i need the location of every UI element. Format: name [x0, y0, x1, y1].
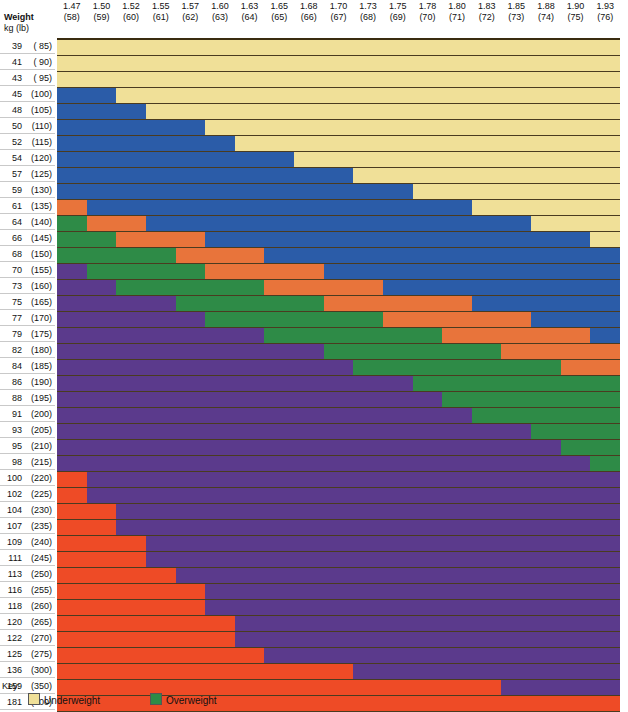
weight-kg: 98: [0, 454, 22, 470]
weight-axis-label-units: kg (lb): [4, 23, 29, 33]
weight-row-label: 39( 85): [0, 38, 55, 54]
weight-lb: (180): [22, 342, 55, 358]
weight-lb: (125): [22, 166, 55, 182]
weight-lb: ( 85): [22, 38, 55, 54]
bmi-grid-row: [57, 328, 620, 344]
bmi-cell-underweight: [57, 72, 620, 88]
bmi-grid-row: [57, 184, 620, 200]
weight-row-label: 86(190): [0, 374, 55, 390]
weight-lb: (235): [22, 518, 55, 534]
weight-row-label: 120(265): [0, 614, 55, 630]
bmi-grid-row: [57, 360, 620, 376]
legend-item: Overweight: [150, 693, 217, 706]
bmi-grid-row: [57, 248, 620, 264]
bmi-cell-underweight: [353, 168, 620, 184]
legend-label: Overweight: [166, 695, 217, 706]
bmi-grid-row: [57, 312, 620, 328]
height-column-header: 1.88(74): [531, 1, 561, 23]
bmi-grid-row: [57, 520, 620, 536]
bmi-grid-row: [57, 56, 620, 72]
bmi-cell-obese: [57, 424, 531, 440]
bmi-cell-obese: [57, 264, 87, 280]
bmi-cell-overweight: [531, 424, 620, 440]
bmi-cell-normal: [264, 248, 620, 264]
weight-row-label: 98(215): [0, 454, 55, 470]
weight-lb: (190): [22, 374, 55, 390]
bmi-cell-obese: [57, 408, 472, 424]
weight-lb: (200): [22, 406, 55, 422]
bmi-cell-normal: [57, 104, 146, 120]
weight-kg: 45: [0, 86, 22, 102]
height-column-header: 1.73(68): [353, 1, 383, 23]
weight-row-label: 50(110): [0, 118, 55, 134]
height-meters: 1.83: [472, 1, 502, 12]
weight-lb: (145): [22, 230, 55, 246]
height-inches: (62): [175, 12, 205, 23]
bmi-cell-underweight: [116, 88, 620, 104]
bmi-cell-severely-obese: [57, 520, 116, 536]
weight-row-label: 79(175): [0, 326, 55, 342]
weight-kg: 122: [0, 630, 22, 646]
weight-lb: (160): [22, 278, 55, 294]
bmi-cell-overweight: [57, 216, 87, 232]
bmi-cell-normal: [57, 168, 353, 184]
bmi-cell-obese: [116, 504, 620, 520]
weight-lb: (105): [22, 102, 55, 118]
height-meters: 1.88: [531, 1, 561, 12]
bmi-grid-row: [57, 168, 620, 184]
weight-lb: (135): [22, 198, 55, 214]
bmi-cell-obese: [235, 632, 620, 648]
weight-kg: 91: [0, 406, 22, 422]
weight-lb: (140): [22, 214, 55, 230]
weight-kg: 54: [0, 150, 22, 166]
weight-lb: (240): [22, 534, 55, 550]
bmi-cell-overweight: [176, 296, 324, 312]
bmi-cell-severely-obese: [57, 664, 353, 680]
bmi-grid-row: [57, 632, 620, 648]
weight-lb: (255): [22, 582, 55, 598]
bmi-cell-obese: [57, 456, 590, 472]
legend-title: Key:: [2, 681, 20, 691]
height-inches: (64): [235, 12, 265, 23]
weight-kg: 113: [0, 566, 22, 582]
weight-lb: (165): [22, 294, 55, 310]
bmi-cell-obese: [57, 392, 442, 408]
bmi-cell-normal: [87, 200, 472, 216]
weight-lb: (205): [22, 422, 55, 438]
bmi-cell-obese: [205, 600, 620, 616]
weight-row-label: 45(100): [0, 86, 55, 102]
height-meters: 1.50: [86, 1, 116, 12]
weight-row-label: 57(125): [0, 166, 55, 182]
height-meters: 1.73: [353, 1, 383, 12]
height-inches: (68): [353, 12, 383, 23]
weight-kg: 88: [0, 390, 22, 406]
weight-kg: 102: [0, 486, 22, 502]
weight-row-label: 54(120): [0, 150, 55, 166]
bmi-grid-row: [57, 376, 620, 392]
weight-kg: 61: [0, 198, 22, 214]
bmi-cell-upper-normal-band: [87, 216, 146, 232]
weight-row-label: 59(130): [0, 182, 55, 198]
height-meters: 1.68: [294, 1, 324, 12]
height-meters: 1.47: [57, 1, 87, 12]
bmi-cell-obese: [235, 616, 620, 632]
weight-kg: 52: [0, 134, 22, 150]
weight-lb: (245): [22, 550, 55, 566]
height-meters: 1.78: [412, 1, 442, 12]
bmi-grid-row: [57, 216, 620, 232]
bmi-cell-obese: [57, 280, 116, 296]
height-column-header: 1.78(70): [412, 1, 442, 23]
bmi-cell-overweight: [472, 408, 620, 424]
height-column-header: 1.52(60): [116, 1, 146, 23]
weight-lb: (220): [22, 470, 55, 486]
bmi-cell-overweight: [116, 280, 264, 296]
weight-kg: 50: [0, 118, 22, 134]
bmi-cell-severely-obese: [57, 536, 146, 552]
weight-lb: (230): [22, 502, 55, 518]
weight-row-label: 113(250): [0, 566, 55, 582]
weight-row-label: 122(270): [0, 630, 55, 646]
weight-kg: 104: [0, 502, 22, 518]
bmi-grid-row: [57, 392, 620, 408]
height-column-header: 1.68(66): [294, 1, 324, 23]
